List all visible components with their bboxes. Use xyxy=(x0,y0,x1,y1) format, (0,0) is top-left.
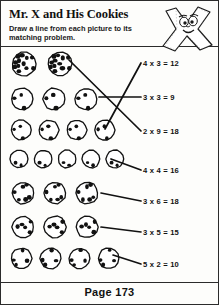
cookie xyxy=(97,247,120,270)
instructions-text: Draw a line from each picture to its mat… xyxy=(9,24,137,43)
cookie xyxy=(9,149,29,169)
cookie xyxy=(11,215,35,239)
cookie xyxy=(10,119,32,141)
matching-exercise-area: 4 x 3 = 12 3 x 3 = 9 2 x 9 = 18 4 x 4 = … xyxy=(1,47,218,282)
problem-4[interactable]: 4 x 4 = 16 xyxy=(143,166,179,175)
problem-7[interactable]: 5 x 2 = 10 xyxy=(143,260,179,269)
cookie-group-5[interactable] xyxy=(11,181,99,205)
cookie-group-6[interactable] xyxy=(11,215,99,239)
cookie xyxy=(105,149,125,169)
cookie xyxy=(33,149,53,169)
worksheet-page: Mr. X and His Cookies Draw a line from e… xyxy=(0,0,219,305)
cookie xyxy=(94,119,116,141)
cookie-group-2[interactable] xyxy=(10,87,98,111)
cookie xyxy=(43,181,67,205)
cookie xyxy=(10,87,34,111)
cookie xyxy=(81,149,101,169)
cookie-group-4[interactable] xyxy=(9,149,125,169)
cookie xyxy=(68,247,91,270)
problem-1[interactable]: 4 x 3 = 12 xyxy=(143,59,179,68)
worksheet-footer: Page 173 xyxy=(1,282,218,305)
problem-6[interactable]: 3 x 5 = 15 xyxy=(143,228,179,237)
problem-2[interactable]: 3 x 3 = 9 xyxy=(143,93,175,102)
cookie xyxy=(10,247,33,270)
problem-3[interactable]: 2 x 9 = 18 xyxy=(143,127,179,136)
cookie xyxy=(43,215,67,239)
cookie xyxy=(75,215,99,239)
cookie xyxy=(42,87,66,111)
cookie xyxy=(57,149,77,169)
page-number: Page 173 xyxy=(1,286,218,298)
cookie xyxy=(11,181,35,205)
page-title: Mr. X and His Cookies xyxy=(9,7,128,22)
cookie xyxy=(38,119,60,141)
problem-5[interactable]: 3 x 6 = 18 xyxy=(143,197,179,206)
cookie xyxy=(11,51,37,77)
cookie xyxy=(39,247,62,270)
cookie-group-7[interactable] xyxy=(10,247,120,270)
match-line-6 xyxy=(101,227,141,232)
cookie xyxy=(47,51,73,77)
cookie xyxy=(66,119,88,141)
cookie-group-3[interactable] xyxy=(10,119,116,141)
match-line-5 xyxy=(101,193,141,201)
cookie xyxy=(75,181,99,205)
cookie xyxy=(74,87,98,111)
cookie-group-1[interactable] xyxy=(11,51,73,77)
